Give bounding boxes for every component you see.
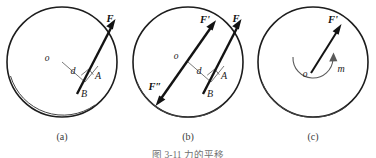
moment-arrowhead-c [329, 53, 337, 62]
label-center-c: o [303, 69, 308, 79]
label-force-prime-c: F' [327, 14, 338, 25]
force-double-prime-arrowhead-b [156, 96, 166, 106]
moment-arc-c [293, 57, 333, 78]
figure-container: o d A B F (a) o d A B [0, 0, 376, 158]
panel-c: o F' m (c) [258, 7, 368, 143]
label-point-b-a: B [81, 88, 87, 99]
panel-caption-a: (a) [56, 131, 67, 143]
label-force-b: F [231, 13, 239, 24]
label-force-double-prime-b: F″ [148, 81, 162, 92]
panel-caption-c: (c) [307, 131, 318, 143]
figure-svg: o d A B F (a) o d A B [0, 0, 376, 158]
label-point-a-a: A [94, 70, 102, 81]
force-prime-vector-c [311, 30, 338, 73]
label-center-b: o [174, 51, 179, 61]
label-force-prime-b: F' [199, 14, 210, 25]
figure-caption: 图 3-11 力的平移 [152, 149, 224, 158]
force-vector-a [77, 26, 112, 94]
label-moment-c: m [337, 63, 344, 74]
label-point-b-b: B [207, 88, 213, 99]
label-force-a: F [105, 13, 113, 24]
label-center-a: o [45, 53, 50, 63]
force-couple-line-b [160, 26, 212, 100]
force-vector-b [203, 26, 238, 94]
panel-a: o d A B F (a) [7, 7, 117, 143]
label-point-a-b: A [220, 70, 228, 81]
disk-outline-c [258, 7, 368, 117]
force-prime-arrowhead-c [333, 24, 342, 35]
panel-b: o d A B F F' F″ (b) [133, 7, 243, 143]
panel-caption-b: (b) [182, 131, 194, 143]
